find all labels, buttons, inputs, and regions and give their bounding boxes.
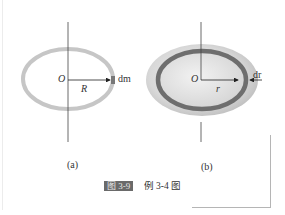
caption-text: 例 3-4 图 [144, 181, 181, 191]
caption-number: 图 3-9 [104, 181, 133, 191]
corner-border-vertical [270, 135, 271, 207]
figure-caption: 图 3-9 例 3-4 图 [0, 178, 285, 192]
element-label-dr: dr [253, 69, 261, 80]
panel-b-disk [146, 22, 262, 142]
corner-border-horizontal [192, 207, 271, 208]
panel-label-a: (a) [67, 159, 78, 170]
radius-label-a: R [81, 83, 87, 94]
radius-label-b: r [216, 83, 220, 94]
panel-a-ring [23, 22, 115, 142]
panel-label-b: (b) [201, 161, 213, 172]
element-label-dm: dm [118, 73, 131, 84]
origin-label-b: O [191, 73, 198, 84]
figure: O R dm (a) O r dr (b) 图 3-9 例 3-4 图 [0, 0, 285, 215]
origin-label-a: O [58, 73, 65, 84]
